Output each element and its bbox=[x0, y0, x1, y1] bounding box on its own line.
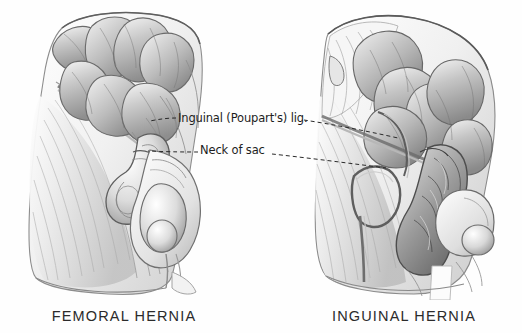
inguinal-hernia-drawing bbox=[286, 0, 522, 300]
illustration-panel-inguinal bbox=[286, 0, 522, 300]
caption-femoral-hernia: FEMORAL HERNIA bbox=[0, 308, 248, 324]
inguinal-testis bbox=[436, 190, 494, 256]
femoral-cut-edge bbox=[172, 272, 196, 294]
label-inguinal-ligament: Inguinal (Poupart's) lig. bbox=[178, 111, 307, 125]
anatomical-figure: Inguinal (Poupart's) lig. Neck of sac FE… bbox=[0, 0, 522, 333]
caption-inguinal-hernia: INGUINAL HERNIA bbox=[288, 308, 520, 324]
label-neck-of-sac: Neck of sac bbox=[200, 143, 265, 157]
inguinal-cut-vessel-strip bbox=[430, 266, 452, 300]
